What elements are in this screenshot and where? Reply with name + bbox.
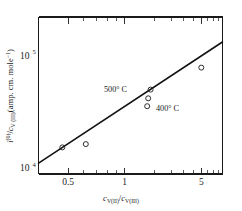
data-points [60, 65, 204, 150]
data-point [145, 104, 150, 109]
x-axis-ticks-top [68, 17, 219, 24]
y-axis-title: i(0)/cV (III)(amp. cm. mole−1) [5, 49, 17, 143]
ytick-mantissa-high: 10 [20, 51, 30, 61]
xtick-label-5: 5 [199, 177, 204, 187]
xlabel-c1-sub: V(II) [107, 198, 119, 205]
fit-line [39, 42, 223, 163]
xtick-label-1: 1 [122, 177, 127, 187]
ytick-label-10e5: 10 5 [20, 48, 36, 61]
ytick-exponent-high: 5 [33, 48, 36, 55]
svg-text:i(0)/cV (III)(amp. cm. mole−1): i(0)/cV (III)(amp. cm. mole−1) [5, 49, 17, 143]
ytick-exponent-low: 4 [33, 161, 37, 168]
data-point [146, 96, 151, 101]
x-axis-title: cV(II)/cV(III) [103, 193, 139, 205]
plot-frame [39, 17, 223, 174]
ylabel-units-open: (amp. cm. mole [5, 58, 15, 112]
data-point [199, 65, 204, 70]
figure-container: 0.5 1 5 10 4 10 5 500° C 400° C cV(II)/c… [0, 0, 242, 211]
ylabel-units-close: ) [5, 49, 15, 52]
x-axis-ticks-bottom [68, 168, 219, 175]
log-log-scatter-chart: 0.5 1 5 10 4 10 5 500° C 400° C cV(II)/c… [0, 0, 242, 211]
annotation-400c: 400° C [156, 104, 180, 113]
annotation-500c: 500° C [104, 85, 128, 94]
ytick-label-10e4: 10 4 [20, 161, 37, 174]
xtick-label-0-5: 0.5 [62, 177, 74, 187]
ylabel-c-sub: V (III) [10, 112, 17, 127]
xlabel-c2-sub: V(III) [125, 198, 139, 205]
data-point [83, 142, 88, 147]
svg-text:cV(II)/cV(III): cV(II)/cV(III) [103, 193, 139, 205]
ytick-mantissa-low: 10 [20, 163, 30, 173]
